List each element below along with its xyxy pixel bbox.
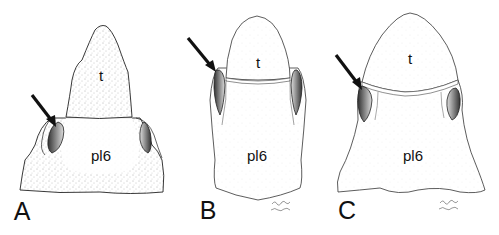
panel-c-pl6-label: pl6 <box>403 148 423 163</box>
panel-a-arrow <box>32 95 56 127</box>
panel-c-t-label: t <box>408 51 412 66</box>
panel-c-label: C <box>338 198 356 223</box>
panel-a-t-label: t <box>99 68 103 83</box>
panel-b-drawing <box>210 16 306 200</box>
panel-c-signature <box>439 200 458 210</box>
panel-c-arrow <box>336 55 362 90</box>
panel-c-drawing <box>337 13 485 193</box>
panel-b-t-label: t <box>256 55 260 70</box>
panel-a-label: A <box>14 199 31 224</box>
panel-b-arrow <box>188 38 216 72</box>
panel-a-pl6-label: pl6 <box>91 148 111 163</box>
panel-b-signature <box>271 201 290 211</box>
figure-drawing <box>0 0 499 235</box>
anatomical-figure: t pl6 A t pl6 B t pl6 C <box>0 0 499 235</box>
panel-b-pl6-label: pl6 <box>247 148 267 163</box>
panel-b-label: B <box>200 198 217 223</box>
